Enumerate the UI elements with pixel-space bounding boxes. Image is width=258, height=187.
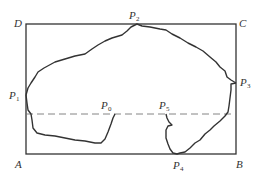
svg-text:5: 5	[166, 105, 170, 113]
svg-text:P: P	[8, 89, 16, 101]
label-b: B	[236, 158, 243, 170]
label-c: C	[239, 17, 247, 29]
label-p5: P 5	[158, 99, 170, 113]
svg-text:P: P	[100, 99, 108, 111]
svg-text:0: 0	[108, 105, 112, 113]
label-p2: P 2	[128, 9, 140, 23]
label-p0: P 0	[100, 99, 112, 113]
upper-boundary-curve	[26, 24, 236, 95]
label-p1: P 1	[8, 89, 20, 103]
svg-text:4: 4	[180, 165, 184, 173]
svg-text:3: 3	[247, 82, 251, 90]
svg-text:1: 1	[16, 95, 20, 103]
geometry-diagram: D C A B P 2 P 1 P 3 P 0 P 5 P 4	[0, 0, 258, 187]
svg-text:2: 2	[136, 15, 140, 23]
svg-text:P: P	[128, 9, 136, 21]
svg-text:P: P	[172, 159, 180, 171]
svg-text:P: P	[239, 76, 247, 88]
lower-right-boundary-curve	[166, 83, 236, 154]
label-p4: P 4	[172, 159, 184, 173]
label-p3: P 3	[239, 76, 251, 90]
label-a: A	[14, 158, 22, 170]
svg-text:P: P	[158, 99, 166, 111]
label-d: D	[13, 17, 22, 29]
